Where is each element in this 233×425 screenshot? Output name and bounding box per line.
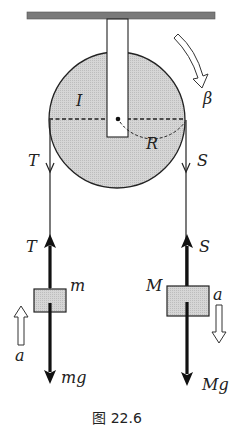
weight-Mg-arrow-icon [181, 372, 193, 386]
pulley-diagram: I R β T S T m mg a S M Mg a 图 22.6 [0, 0, 233, 425]
mass-M-label: M [145, 276, 163, 295]
axle-dot [116, 117, 121, 122]
left-tension-top-label: T [28, 151, 40, 170]
figure-caption: 图 22.6 [92, 410, 142, 425]
left-accel-arrow-icon [14, 306, 28, 345]
weight-mg-label: mg [61, 368, 86, 387]
mass-m-label: m [70, 276, 85, 295]
angular-accel-label: β [202, 89, 212, 108]
inertia-label: I [75, 91, 83, 110]
right-tension-top-label: S [197, 151, 208, 170]
right-tension-bottom-label: S [199, 237, 210, 256]
right-accel-arrow-icon [212, 305, 226, 343]
ceiling [27, 12, 215, 19]
right-accel-label: a [213, 285, 223, 304]
weight-mg-arrow-icon [44, 370, 56, 384]
rotation-arrow-icon [174, 34, 208, 88]
radius-label: R [145, 134, 158, 153]
weight-Mg-label: Mg [201, 375, 229, 394]
right-tension-force-arrow-icon [181, 234, 193, 248]
left-tension-bottom-label: T [26, 237, 38, 256]
left-accel-label: a [15, 346, 25, 365]
